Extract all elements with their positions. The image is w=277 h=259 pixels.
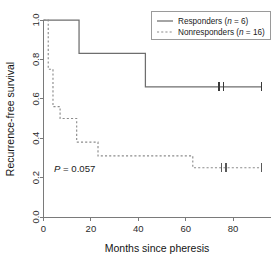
legend-label-main: Responders ( bbox=[178, 17, 227, 26]
x-axis-title: Months since pheresis bbox=[105, 242, 209, 254]
pvalue-annotation: P = 0.057 bbox=[54, 163, 95, 174]
survival-plot-canvas: 0.00.20.40.60.81.0 020406080 Recurrence-… bbox=[0, 0, 277, 259]
y-tick-label: 1.0 bbox=[30, 13, 41, 26]
x-tick-label: 20 bbox=[86, 223, 97, 234]
y-tick-label: 0.0 bbox=[30, 210, 41, 223]
kaplan-meier-figure: 0.00.20.40.60.81.0 020406080 Recurrence-… bbox=[0, 0, 277, 259]
legend-label-2: Nonresponders (n = 16) bbox=[178, 28, 265, 37]
legend-label-count: = 16) bbox=[244, 28, 265, 37]
x-tick-label: 0 bbox=[41, 223, 46, 234]
y-axis-ticks: 0.00.20.40.60.81.0 bbox=[30, 13, 44, 223]
x-axis-ticks: 020406080 bbox=[41, 217, 239, 234]
legend-label-count: = 6) bbox=[232, 17, 249, 26]
curve-nonresponders bbox=[44, 20, 262, 168]
legend-label-1: Responders (n = 6) bbox=[178, 17, 249, 26]
y-tick-label: 0.6 bbox=[30, 92, 41, 105]
x-tick-label: 40 bbox=[133, 223, 144, 234]
y-tick-label: 0.8 bbox=[30, 53, 41, 66]
legend-label-main: Nonresponders ( bbox=[178, 28, 239, 37]
legend: Responders (n = 6)Nonresponders (n = 16) bbox=[152, 12, 271, 40]
survival-curves bbox=[44, 20, 262, 168]
y-axis-title: Recurrence-free survival bbox=[4, 62, 16, 176]
censor-marks bbox=[219, 82, 262, 172]
x-tick-label: 80 bbox=[228, 223, 239, 234]
x-tick-label: 60 bbox=[180, 223, 191, 234]
y-tick-label: 0.2 bbox=[30, 171, 41, 184]
y-tick-label: 0.4 bbox=[30, 132, 41, 145]
pvalue-value: = 0.057 bbox=[60, 163, 95, 174]
